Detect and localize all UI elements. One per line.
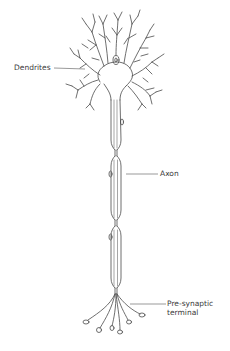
terminal-bouton (83, 320, 89, 324)
presynaptic-terminal (83, 294, 145, 334)
dendrites-label: Dendrites (14, 63, 51, 72)
presynaptic-label-line2: terminal (167, 308, 198, 317)
terminal-bouton (118, 330, 123, 334)
presynaptic-label-line1: Pre-synaptic (167, 299, 213, 308)
terminal-bouton (139, 313, 145, 317)
nucleus (113, 56, 119, 65)
axon (104, 84, 126, 294)
terminal-bouton (127, 320, 132, 324)
axon-label: Axon (160, 169, 179, 178)
terminal-bouton (97, 328, 102, 333)
dendrite-tree (66, 10, 164, 110)
